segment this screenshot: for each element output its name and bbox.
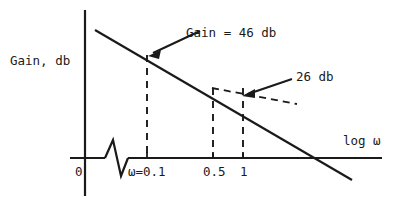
axis-break-zigzag-icon: [105, 140, 128, 176]
annotation-arrow-26db-icon: [242, 79, 292, 98]
bode-gain-plot-figure: Gain, db log ω Gain = 46 db 26 db 0 ω=0.…: [0, 0, 402, 205]
x-tick-label-zero: 0: [75, 166, 83, 179]
annotation-26db-label: 26 db: [296, 71, 334, 84]
annotation-gain-46-label: Gain = 46 db: [186, 27, 276, 40]
x-tick-label-0-5: 0.5: [203, 166, 226, 179]
y-axis-label: Gain, db: [10, 55, 70, 68]
x-axis-label: log ω: [343, 135, 381, 148]
x-tick-label-1: 1: [240, 166, 248, 179]
x-tick-label-omega-0-1: ω=0.1: [128, 166, 166, 179]
